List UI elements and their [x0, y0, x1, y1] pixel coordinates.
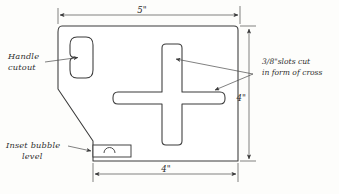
label-bubble-level-line1: Inset bubble	[5, 140, 60, 150]
label-handle-cutout-line2: cutout	[8, 62, 36, 72]
dim-label-top-width: 5"	[137, 5, 146, 15]
dim-label-bottom-width: 4"	[160, 164, 170, 174]
technical-drawing-canvas: 5" 4" 4" Handle cutout 3/8"slots cut in …	[0, 0, 339, 194]
leader-bubble-level	[68, 146, 91, 151]
drawing-sheet: 5" 4" 4" Handle cutout 3/8"slots cut in …	[0, 0, 339, 194]
label-slots-note-line2: in form of cross	[262, 68, 323, 77]
label-handle-cutout-line1: Handle	[7, 51, 39, 61]
label-slots-note-line1: 3/8"slots cut	[262, 57, 311, 66]
handle-cutout-slot	[70, 37, 93, 78]
label-bubble-level-line2: level	[22, 151, 43, 161]
dim-label-right-height: 4"	[236, 93, 246, 103]
inset-bubble-level-housing	[93, 145, 131, 157]
